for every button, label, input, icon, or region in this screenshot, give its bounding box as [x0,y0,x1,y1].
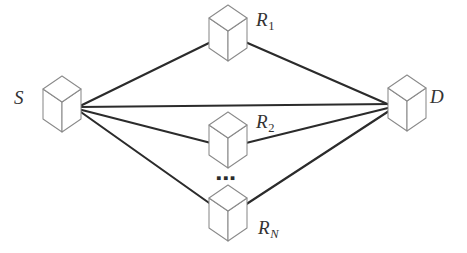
relay-ellipsis-marker: ▪▪▪ [216,170,237,185]
diagram-canvas [0,0,467,253]
cube-relay-r1 [209,5,247,61]
edge-s-rn [78,110,212,205]
edge-s-r1 [78,41,213,107]
cubes-group [43,5,426,241]
cube-relay-r2 [209,112,247,168]
node-label-destination: D [430,87,444,106]
node-label-relay-2: R2 [256,112,274,131]
cube-source [43,76,81,132]
cube-destination [388,75,426,131]
cube-relay-rn [209,185,247,241]
relay-network-diagram: S D R1 R2 RN ▪▪▪ [0,0,467,253]
label-subscript: 1 [268,19,274,33]
edge-s-r2 [78,109,211,143]
label-subscript: 2 [268,121,274,135]
edge-s-d [78,104,392,107]
label-subscript: N [270,227,279,241]
node-label-relay-n: RN [258,218,278,237]
node-label-relay-1: R1 [256,10,274,29]
node-label-source: S [14,88,24,107]
edge-r1-d [243,41,392,106]
